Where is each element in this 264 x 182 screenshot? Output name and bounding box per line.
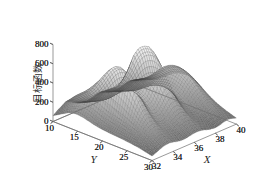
surface-plot-figure: 目标函数 020040060080010152025303234363840YX… (0, 0, 264, 182)
y-tick-label: 10 (45, 123, 55, 133)
z-tick-label: 400 (35, 77, 49, 87)
y-tick-label: 15 (70, 132, 80, 142)
y-tick-label: 25 (119, 152, 129, 162)
y-tick-label: 20 (95, 142, 105, 152)
y-axis-label: Y (90, 153, 98, 165)
z-tick-label: 600 (35, 58, 49, 68)
z-tick-label: 800 (35, 39, 49, 49)
surface-plot-canvas: 020040060080010152025303234363840YX02004… (0, 0, 264, 182)
x-tick-label: 36 (194, 143, 204, 153)
x-axis-label: X (203, 153, 212, 165)
z-tick-label: 200 (35, 97, 49, 107)
x-tick-label: 40 (237, 125, 247, 135)
x-tick-label: 38 (215, 134, 225, 144)
x-tick-label: 34 (173, 152, 183, 162)
y-tick-label: 30 (144, 162, 154, 172)
x-tick-label: 32 (152, 161, 161, 171)
